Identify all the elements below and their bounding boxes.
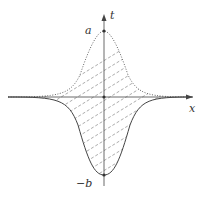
x-axis-label: x	[189, 103, 195, 114]
lower-curve	[8, 97, 193, 175]
upper-curve	[8, 31, 193, 97]
t-axis-arrow-icon	[102, 14, 107, 21]
peak-a-label: a	[85, 25, 92, 36]
t-axis-label: t	[110, 10, 114, 21]
hatch-fill	[40, 20, 170, 197]
x-axis-arrow-icon	[186, 95, 193, 100]
peak-a-point	[102, 29, 105, 32]
peak-b-point	[102, 173, 105, 176]
peak-b-label: −b	[76, 178, 92, 189]
gaussian-diagram	[0, 0, 206, 197]
origin-point	[102, 95, 105, 98]
